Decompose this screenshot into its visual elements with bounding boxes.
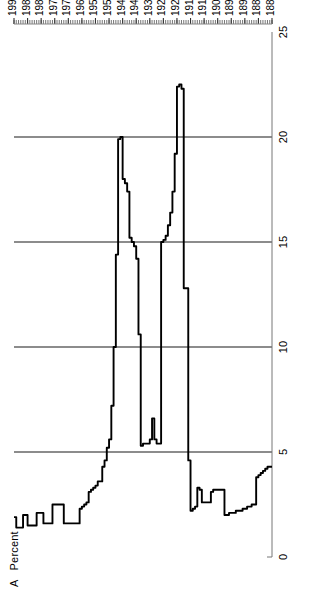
- x-tick-label: 1994: [7, 0, 18, 16]
- y-tick-label: 25: [277, 20, 289, 44]
- x-tick-label: 1946: [116, 0, 127, 16]
- x-tick-label: 1892: [238, 0, 249, 16]
- x-tick-label: 1976: [48, 0, 59, 16]
- x-tick-label: 1982: [34, 0, 45, 16]
- x-tick-label: 1898: [224, 0, 235, 16]
- x-tick-label: 1964: [75, 0, 86, 16]
- y-axis-title-group: A Percent: [8, 531, 20, 587]
- x-tick-label: 1910: [197, 0, 208, 16]
- y-tick-label: 0: [277, 545, 289, 569]
- x-tick-label: 1880: [265, 0, 276, 16]
- x-tick-label: 1922: [170, 0, 181, 16]
- gridlines-group: [14, 137, 272, 452]
- panel-letter: A: [8, 579, 20, 587]
- x-minor-ticks-group: [14, 20, 272, 24]
- y-tick-label: 20: [277, 125, 289, 149]
- y-tick-label: 10: [277, 335, 289, 359]
- x-tick-label: 1988: [21, 0, 32, 16]
- rotated-figure-container: A Percent 2520151050 1880188618921898190…: [0, 0, 315, 593]
- y-axis-unit-label: Percent: [8, 531, 20, 570]
- x-tick-label: 1958: [88, 0, 99, 16]
- line-chart-plot: [0, 0, 315, 593]
- x-tick-label: 1934: [143, 0, 154, 16]
- x-tick-label: 1916: [184, 0, 195, 16]
- x-tick-label: 1886: [251, 0, 262, 16]
- data-series-line: [14, 85, 272, 528]
- x-tick-label: 1904: [211, 0, 222, 16]
- chart-figure: A Percent 2520151050 1880188618921898190…: [0, 0, 315, 593]
- y-tick-label: 15: [277, 230, 289, 254]
- x-tick-label: 1952: [102, 0, 113, 16]
- x-tick-label: 1940: [129, 0, 140, 16]
- axis-lines-group: [14, 24, 272, 557]
- x-tick-label: 1970: [61, 0, 72, 16]
- y-tick-label: 5: [277, 440, 289, 464]
- x-tick-label: 1928: [156, 0, 167, 16]
